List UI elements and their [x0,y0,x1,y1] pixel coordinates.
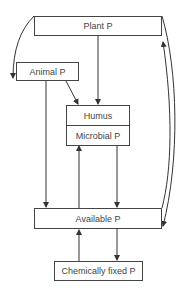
node-available-p: Available P [34,208,162,229]
node-microbial-p: Microbial P [67,126,129,145]
node-humus-microbial: Humus Microbial P [66,105,130,146]
node-plant-p-label: Plant P [83,21,112,31]
arrow-available-to-plant [162,42,170,208]
node-chemically-fixed-p: Chemically fixed P [54,261,143,281]
node-humus-label: Humus [84,111,113,121]
node-animal-p-label: Animal P [29,67,65,77]
node-plant-p: Plant P [34,16,162,36]
node-chemically-fixed-p-label: Chemically fixed P [61,266,135,276]
node-humus: Humus [67,106,129,126]
node-microbial-p-label: Microbial P [76,131,121,141]
arrow-animal-to-humus [66,81,78,104]
cycle-arrows [0,0,189,295]
node-animal-p: Animal P [16,62,79,81]
node-available-p-label: Available P [76,214,121,224]
